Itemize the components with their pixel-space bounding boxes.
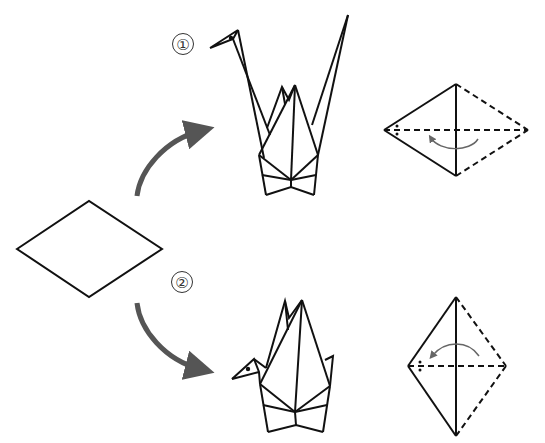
origami-diagram	[0, 0, 545, 443]
crane-1-raised	[210, 15, 348, 195]
path-1-label: ①	[172, 33, 194, 55]
crane-2-folded	[232, 300, 333, 432]
fold-arrow-icon	[431, 138, 478, 149]
start-diamond-paper	[17, 201, 162, 297]
fold-diagram-2	[408, 297, 506, 436]
path-2-label: ②	[171, 271, 193, 293]
arrow-to-path-2	[137, 303, 200, 369]
fold-diagram-1	[384, 84, 528, 176]
arrow-to-path-1	[137, 131, 200, 196]
